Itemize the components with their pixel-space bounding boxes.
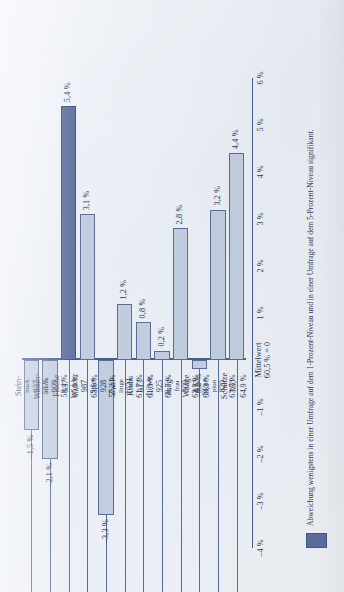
category-name-line2: pion <box>210 363 218 409</box>
bar-value-label: 3,2 % <box>213 186 222 206</box>
bar-value-label: –2,1 % <box>45 463 54 487</box>
axis-tick-1: 1 % <box>256 306 265 319</box>
category-name: Stier <box>89 363 98 409</box>
category-name: Waage <box>182 363 191 409</box>
bar-schtze <box>229 153 244 360</box>
category-name-line2: frau <box>173 363 181 409</box>
value-axis-line <box>252 78 253 548</box>
axis-tick-3: 3 % <box>256 212 265 225</box>
figure-page: –1,5 %–2,1 %5,4 %3,1 %–3,3 %1,2 %0,8 %0,… <box>0 0 344 592</box>
bar-lwe <box>154 351 169 360</box>
category-name: Wasser-mann <box>33 363 50 409</box>
category-count: 928 <box>99 363 108 409</box>
axis-tick-4: 4 % <box>256 165 265 178</box>
axis-tick-mean: Mittelwert60,5 % = 0 <box>254 342 273 378</box>
category-name: Stein-bock <box>14 363 31 409</box>
legend-swatch-significant <box>306 533 327 548</box>
category-count: 925 <box>155 363 164 409</box>
bar-value-label: 2,8 % <box>175 205 184 225</box>
axis-tick-6: 6 % <box>256 71 265 84</box>
bar-fische <box>61 106 76 360</box>
mean-label-line2: 60,5 % = 0 <box>263 342 272 378</box>
category-count: 987 <box>80 363 89 409</box>
bar-chart-plot: –1,5 %–2,1 %5,4 %3,1 %–3,3 %1,2 %0,8 %0,… <box>22 78 246 548</box>
axis-tick-neg3: –3 % <box>256 492 265 509</box>
chart-legend: Abweichung wenigstens in einer Umfrage a… <box>306 130 327 548</box>
bar-krebs <box>136 322 151 360</box>
category-name: Löwe <box>145 363 154 409</box>
category-count: 760 <box>229 363 238 409</box>
category-name: Zwil-linge <box>108 363 125 409</box>
category-count: 812 <box>192 363 201 409</box>
category-percent: 64,9 % <box>239 363 248 409</box>
bar-widder <box>80 214 95 360</box>
category-name: Widder <box>70 363 79 409</box>
bar-value-label: –3,3 % <box>101 519 110 543</box>
category-name-line2: mann <box>42 363 50 409</box>
bar-value-label: 0,2 % <box>157 327 166 347</box>
axis-tick-neg1: –1 % <box>256 398 265 415</box>
bar-zwillinge <box>117 304 132 360</box>
axis-tick-neg4: –4 % <box>256 539 265 556</box>
bar-value-label: 0,8 % <box>138 299 147 319</box>
bar-value-label: –1,5 % <box>26 435 35 459</box>
category-name: Krebs <box>126 363 135 409</box>
category-name: Jung-frau <box>164 363 181 409</box>
legend-note-text: Abweichung wenigstens in einer Umfrage a… <box>306 130 315 526</box>
bar-jungfrau <box>173 228 188 360</box>
category-count: 937 <box>61 363 70 409</box>
axis-tick-2: 2 % <box>256 259 265 272</box>
category-name: Skor-pion <box>201 363 218 409</box>
category-name-line2: bock <box>23 363 31 409</box>
category-name: Fische <box>52 363 61 409</box>
bar-skorpion <box>210 210 225 360</box>
bar-value-label: 3,1 % <box>82 190 91 210</box>
rotated-figure: –1,5 %–2,1 %5,4 %3,1 %–3,3 %1,2 %0,8 %0,… <box>0 0 344 592</box>
bar-value-label: 1,2 % <box>119 280 128 300</box>
category-name-line2: linge <box>117 363 125 409</box>
bar-value-label: 4,4 % <box>231 129 240 149</box>
category-name: Schütze <box>220 363 229 409</box>
mean-label-line1: Mittelwert <box>254 342 263 378</box>
axis-tick-neg2: –2 % <box>256 445 265 462</box>
category-cell: Schütze76064,9 % <box>220 363 248 409</box>
axis-tick-5: 5 % <box>256 118 265 131</box>
category-count: 913 <box>136 363 145 409</box>
bar-value-label: 5,4 % <box>63 82 72 102</box>
category-table: Stein-bock83759 %Wasser-mann90958,4 %Fis… <box>22 78 23 548</box>
